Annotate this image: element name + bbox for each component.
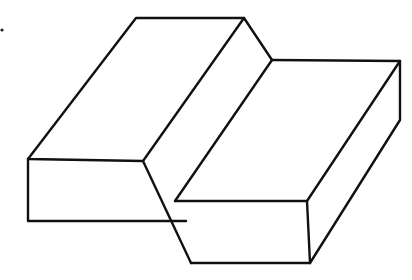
left-block <box>28 18 244 221</box>
right-block-top-face <box>175 60 400 201</box>
step-edge <box>244 18 272 60</box>
right-block-front-face <box>191 201 310 263</box>
left-block-front-face <box>28 159 186 221</box>
right-block-side-face <box>310 61 400 263</box>
stray-mark <box>0 28 3 31</box>
right-block <box>175 60 400 263</box>
valley-edge <box>143 161 191 263</box>
left-block-top-face <box>28 18 244 161</box>
step-and-valley <box>143 18 272 263</box>
right-block-top-left-edge <box>175 60 272 201</box>
stepped-blocks-diagram <box>0 0 412 280</box>
